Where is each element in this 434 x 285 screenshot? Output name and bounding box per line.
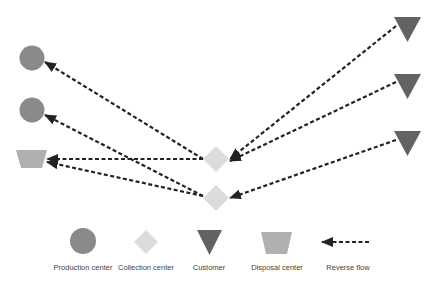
reverse-flow-edge-c2-d1 (47, 162, 203, 196)
customer-node (394, 74, 421, 99)
legend-collection-label: Collection center (118, 263, 174, 272)
disposal-center-node (16, 150, 47, 168)
network-diagram: Production center Collection center Cust… (0, 0, 434, 285)
edges-layer (45, 26, 396, 198)
legend-collection-icon (134, 230, 158, 254)
legend-production-icon (70, 228, 96, 254)
legend-customer-label: Customer (193, 263, 226, 272)
production-center-node (20, 98, 45, 123)
legend-reverse-flow-label: Reverse flow (326, 263, 370, 272)
legend-production-label: Production center (54, 263, 113, 272)
nodes-layer (16, 17, 421, 211)
customer-node (394, 131, 421, 156)
production-center-node (20, 46, 45, 71)
legend-disposal-icon (261, 232, 292, 254)
reverse-flow-edge-k1-c1 (230, 26, 396, 159)
reverse-flow-edge-c1-p1 (45, 62, 203, 159)
customer-node (394, 17, 421, 42)
reverse-flow-edge-c2-p2 (45, 115, 203, 196)
legend-disposal-label: Disposal center (251, 263, 303, 272)
legend: Production center Collection center Cust… (54, 228, 371, 272)
collection-center-node (203, 185, 229, 211)
legend-customer-icon (197, 230, 222, 255)
collection-center-node (203, 146, 229, 172)
